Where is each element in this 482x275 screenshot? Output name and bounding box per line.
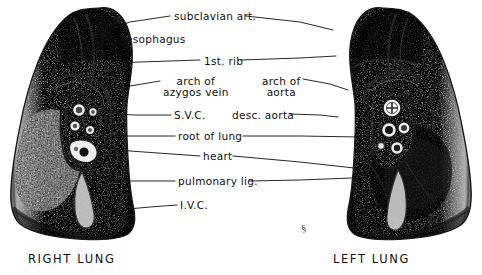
- label-ivc: I.V.C.: [180, 200, 208, 212]
- label-svc: S.V.C.: [174, 110, 206, 122]
- label-heart: heart: [203, 151, 232, 163]
- label-esophagus: esophagus: [126, 34, 186, 46]
- label-first-rib: 1st. rib: [204, 56, 243, 68]
- label-subclavian-art: subclavian art.: [174, 11, 256, 23]
- label-pulmonary-lig: pulmonary lig.: [178, 176, 258, 188]
- right-lung-caption: RIGHT LUNG: [28, 252, 115, 266]
- anatomy-figure-page: § subclavian art.esophagus1st. ribarch o…: [0, 0, 482, 275]
- label-arch-of-azygos-vein: arch of azygos vein: [163, 76, 229, 98]
- label-root-of-lung: root of lung: [178, 131, 242, 143]
- label-arch-of-aorta: arch of aorta: [262, 76, 301, 98]
- left-lung-caption: LEFT LUNG: [333, 252, 410, 266]
- label-desc-aorta: desc. aorta: [232, 110, 294, 122]
